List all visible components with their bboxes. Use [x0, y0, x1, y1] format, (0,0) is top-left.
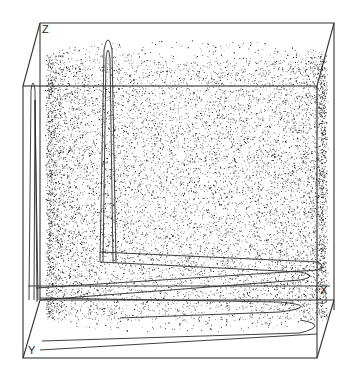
- x-axis-label: X: [320, 285, 327, 296]
- point-cloud: [45, 40, 329, 332]
- scatter-3d-plot: [0, 0, 355, 380]
- y-axis-label: Y: [28, 345, 35, 356]
- z-axis-label: Z: [42, 24, 49, 35]
- bounding-box: [23, 23, 334, 358]
